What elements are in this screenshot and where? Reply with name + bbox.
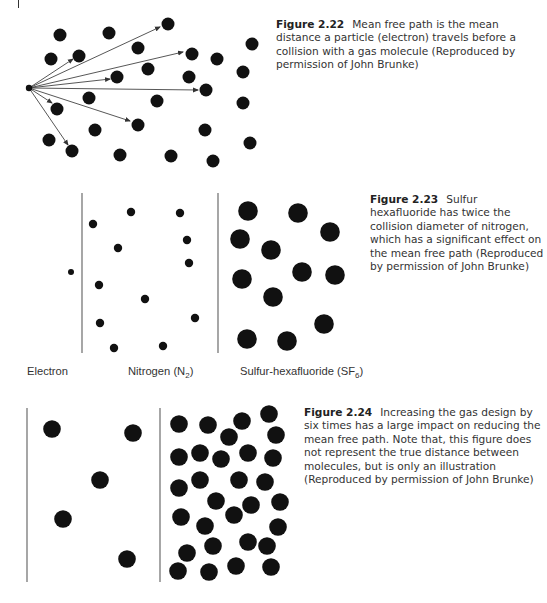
gas-molecule [200,84,213,97]
gas-molecule [207,155,220,168]
gas-molecule [83,92,96,105]
gas-molecule-dense [269,518,287,536]
gas-molecule-dense [191,444,209,462]
gas-molecule-dense [267,426,285,444]
figure-2-24-caption: Figure 2.24Increasing the gas design by … [304,406,544,486]
figure-2-22-caption: Figure 2.22Mean free path is the mean di… [276,18,538,72]
label-text: Electron [27,365,68,377]
sf6-molecule [320,222,340,242]
sf6-molecule [277,331,297,351]
figure-diagrams [0,0,547,603]
gas-molecule-dense [264,449,282,467]
gas-molecule [66,145,79,158]
nitrogen-molecule [185,259,193,267]
gas-molecule-dense [239,444,257,462]
gas-molecule [237,66,250,79]
gas-molecule-dense [230,471,248,489]
gas-molecule [54,29,67,42]
figure-2-23-caption: Figure 2.23Sulfur hexafluoride has twice… [370,193,545,273]
gas-molecule [211,53,224,66]
gas-molecule-dense [204,537,222,555]
gas-molecule [162,18,175,31]
gas-molecule [246,38,259,51]
label-suffix: ) [360,365,364,377]
gas-molecule-dense [260,405,278,423]
gas-molecule [45,53,58,66]
path-arrow [29,88,130,121]
gas-molecule-dense [169,562,187,580]
sf6-molecule [237,329,257,349]
gas-molecule [114,149,127,162]
gas-molecule-sparse [124,424,142,442]
gas-molecule-dense [233,412,251,430]
gas-molecule [142,63,155,76]
gas-molecule [237,97,250,110]
gas-molecule-dense [271,493,289,511]
nitrogen-molecule [183,236,191,244]
gas-molecule-dense [178,544,196,562]
gas-molecule-dense [212,450,230,468]
figure-2-24-diagram [27,405,289,582]
sf6-molecule [292,262,312,282]
label-text: Sulfur-hexafluoride (SF [240,365,355,377]
gas-molecule-dense [239,533,257,551]
figure-number: Figure 2.24 [304,406,372,418]
sf6-molecule [238,201,258,221]
path-arrow [29,88,198,90]
nitrogen-molecule [127,208,135,216]
nitrogen-molecule [159,342,167,350]
sf6-molecule [230,229,250,249]
gas-molecule-dense [170,415,188,433]
gas-molecule [111,71,124,84]
gas-molecule [186,48,199,61]
gas-molecule-dense [242,496,260,514]
gas-molecule [89,124,102,137]
nitrogen-molecule [191,314,199,322]
label-suffix: ) [190,365,194,377]
gas-molecule [43,134,56,147]
gas-molecule [103,27,116,40]
sf6-molecule [232,269,252,289]
gas-molecule-dense [199,416,217,434]
nitrogen-molecule [95,281,103,289]
gas-molecule-dense [220,428,238,446]
gas-molecule-dense [262,558,280,576]
gas-molecule [51,103,64,116]
figure-2-23-diagram [68,193,345,353]
sf6-molecule [325,265,345,285]
sf6-molecule [314,314,334,334]
nitrogen-molecule [141,295,149,303]
nitrogen-molecule [110,344,118,352]
gas-molecule [73,50,86,63]
figure-number: Figure 2.22 [276,18,344,30]
nitrogen-molecule [89,220,97,228]
electron [68,269,74,275]
gas-molecule-dense [172,508,190,526]
gas-molecule [244,137,257,150]
gas-molecule-dense [207,492,225,510]
gas-molecule-dense [256,473,274,491]
gas-molecule-dense [170,479,188,497]
gas-molecule-dense [191,471,209,489]
gas-molecule [165,150,178,163]
panel-label-nitrogen: Nitrogen (N2) [128,365,193,380]
gas-molecule-dense [170,448,188,466]
nitrogen-molecule [176,209,184,217]
gas-molecule-sparse [43,420,61,438]
label-text: Nitrogen (N [128,365,185,377]
gas-molecule-dense [196,517,214,535]
path-arrow [29,88,52,103]
gas-molecule [132,119,145,132]
gas-molecule-sparse [118,550,136,568]
gas-molecule [183,71,196,84]
gas-molecule-dense [258,537,276,555]
sf6-molecule [288,203,308,223]
gas-molecule-dense [227,557,245,575]
gas-molecule-dense [200,563,218,581]
gas-molecule-sparse [91,471,109,489]
gas-molecule [151,95,164,108]
figure-number: Figure 2.23 [370,193,438,205]
gas-molecule-dense [225,506,243,524]
figure-2-22-diagram [26,18,259,168]
panel-label-electron: Electron [27,365,68,377]
